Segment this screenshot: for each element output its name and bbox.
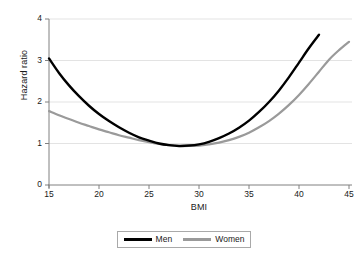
series-line-men (49, 35, 319, 146)
x-axis-tick-labels: 15202530354045 (0, 190, 362, 202)
x-tick-label: 45 (336, 190, 362, 199)
x-tick-label: 40 (286, 190, 312, 199)
data-series-layer (49, 35, 349, 146)
x-tick-label: 35 (236, 190, 262, 199)
hazard-ratio-bmi-chart: Hazard ratio 01234 15202530354045 BMI Me… (0, 0, 362, 257)
legend-item-women: Women (183, 235, 244, 244)
x-axis-title: BMI (49, 202, 349, 212)
x-tick-label: 20 (86, 190, 112, 199)
axis-lines (48, 19, 352, 188)
series-line-women (49, 42, 349, 146)
x-tick-label: 30 (186, 190, 212, 199)
legend-swatch-men-icon (124, 238, 152, 241)
legend-item-men: Men (124, 235, 173, 244)
chart-legend: Men Women (117, 231, 251, 248)
plot-canvas (0, 0, 362, 257)
x-tick-label: 25 (136, 190, 162, 199)
x-tick-label: 15 (36, 190, 62, 199)
axis-tick-marks (45, 19, 349, 189)
legend-label-women: Women (215, 235, 244, 244)
legend-label-men: Men (156, 235, 173, 244)
legend-swatch-women-icon (183, 238, 211, 241)
gridlines (49, 19, 352, 144)
